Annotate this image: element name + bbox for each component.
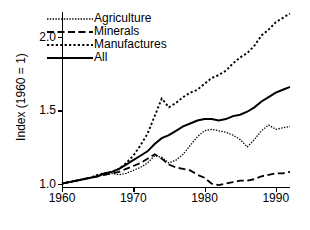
x-tick-label: 1990 <box>246 192 306 204</box>
legend-line-sample <box>46 13 94 24</box>
legend-item-label: All <box>94 51 107 63</box>
chart-figure: Index (1960 = 1) 1.01.52.0 1960197019801… <box>0 0 310 230</box>
y-tick-label: 1.5 <box>16 104 56 116</box>
legend-item-label: Agriculture <box>94 12 151 24</box>
x-axis-tick-labels: 1960197019801990 <box>0 192 310 212</box>
legend-line-sample <box>46 52 94 63</box>
legend-item-manufactures: Manufactures <box>46 38 186 50</box>
legend-item-minerals: Minerals <box>46 25 186 37</box>
y-tick-label: 1.0 <box>16 178 56 190</box>
x-tick-label: 1970 <box>103 192 163 204</box>
legend-item-label: Manufactures <box>94 38 167 50</box>
series-line-minerals <box>62 154 290 185</box>
chart-legend: AgricultureMineralsManufacturesAll <box>46 12 186 64</box>
legend-line-sample <box>46 39 94 50</box>
x-tick-label: 1980 <box>175 192 235 204</box>
x-tick-label: 1960 <box>32 192 92 204</box>
legend-item-label: Minerals <box>94 25 139 37</box>
legend-item-all: All <box>46 51 186 63</box>
legend-line-sample <box>46 26 94 37</box>
legend-item-agriculture: Agriculture <box>46 12 186 24</box>
series-line-all <box>62 87 290 184</box>
